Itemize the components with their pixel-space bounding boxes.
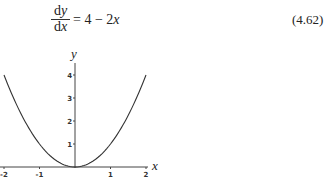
fraction-numerator: dy bbox=[51, 4, 70, 18]
x-tick-label: 2 bbox=[144, 171, 149, 179]
x-tick-label: -1 bbox=[36, 171, 44, 179]
fraction-denominator: dx bbox=[51, 20, 70, 34]
x-ticks: -2-112 bbox=[0, 167, 148, 179]
y-tick-label: 3 bbox=[67, 95, 72, 103]
y-tick-label: 1 bbox=[67, 141, 72, 149]
y-ticks: 1234 bbox=[67, 72, 75, 149]
x-tick-label: -2 bbox=[0, 171, 8, 179]
equation-number: (4.62) bbox=[292, 12, 323, 28]
parabola-plot: 1234 -2-112 bbox=[0, 50, 170, 185]
x-tick-label: 1 bbox=[108, 171, 113, 179]
y-tick-label: 4 bbox=[67, 72, 72, 80]
y-tick-label: 2 bbox=[67, 118, 72, 126]
equation-rhs: = 4 − 2x bbox=[73, 12, 120, 28]
